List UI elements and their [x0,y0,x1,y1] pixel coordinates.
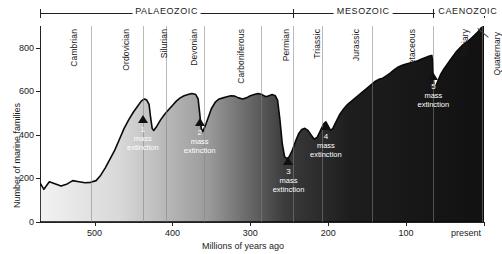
x-tick-label-200: 200 [321,228,336,238]
period-label-devonian: Devonian [189,29,199,66]
extinction-label-2: 2massextinction [184,128,216,155]
x-tick-label-300: 300 [243,228,258,238]
period-label-silurian: Silurian [159,29,169,58]
extinction-number-1: 1 [127,125,159,134]
extinction-text-line2-2: extinction [184,146,216,155]
extinction-text-line1-5: mass [424,91,442,100]
x-tick-label-present: present [451,228,481,238]
gridline-permian [261,26,262,222]
extinction-text-line1-4: mass [317,141,335,150]
x-tick-mark [328,222,329,226]
x-axis-title: Millions of years ago [0,241,486,251]
period-label-carboniferous: Carboniferous [236,29,246,84]
extinction-text-line2-5: extinction [418,100,450,109]
y-tick-label-600: 600 [0,86,34,96]
extinction-marker-triangle-3 [283,157,293,165]
extinction-number-5: 5 [418,82,450,91]
extinction-marker-triangle-2 [195,118,205,126]
x-tick-mark [172,222,173,226]
period-label-cambrian: Cambrian [69,29,79,67]
y-tick-label-800: 800 [0,43,34,53]
y-tick-mark [36,222,40,223]
y-tick-mark [36,91,40,92]
y-tick-mark [36,178,40,179]
era-label-palaeozoic: PALAEOZOIC [132,6,201,16]
y-tick-mark [36,48,40,49]
period-label-triassic: Triassic [312,29,322,59]
extinction-number-2: 2 [184,128,216,137]
gridline-quaternary [482,26,483,222]
extinction-text-line2-4: extinction [310,150,342,159]
x-tick-label-100: 100 [399,228,414,238]
extinction-label-4: 4massextinction [310,132,342,159]
gridline-cretaceous [372,26,373,222]
extinction-number-3: 3 [273,167,305,176]
period-label-quaternary: Quaternary [492,32,502,76]
extinction-text-line2-1: extinction [127,143,159,152]
period-label-permian: Permian [281,29,291,61]
era-label-mesozoic: MESOZOIC [334,6,393,16]
period-label-tertiary: Tertiary [460,29,470,58]
extinction-marker-triangle-1 [138,115,148,123]
extinction-text-line1-2: mass [191,137,209,146]
x-axis-line [40,222,484,223]
era-tick [293,9,294,18]
x-tick-label-500: 500 [87,228,102,238]
y-tick-label-0: 0 [0,217,34,227]
extinction-label-5: 5massextinction [418,82,450,109]
x-tick-mark [406,222,407,226]
y-tick-mark [36,135,40,136]
extinction-number-4: 4 [310,132,342,141]
extinction-marker-triangle-4 [321,122,331,130]
gridline-ordovician [91,26,92,222]
x-tick-mark [484,222,485,226]
extinction-text-line1-3: mass [280,176,298,185]
period-label-ordovician: Ordovician [121,29,131,71]
gridline-tertiary [433,26,434,222]
x-tick-label-400: 400 [165,228,180,238]
extinction-label-1: 1massextinction [127,125,159,152]
era-tick [433,9,434,18]
x-tick-mark [95,222,96,226]
extinction-text-line2-3: extinction [273,185,305,194]
era-header-band: PALAEOZOICMESOZOICCAENOZOIC [0,0,486,20]
era-tick [40,9,41,18]
gridline-silurian [143,26,144,222]
extinction-label-3: 3massextinction [273,167,305,194]
period-label-cretaceous: Cretaceous [407,29,417,73]
x-tick-mark [250,222,251,226]
plot-area [40,26,484,222]
extinction-text-line1-1: mass [134,134,152,143]
era-label-caenozoic: CAENOZOIC [435,6,500,16]
period-label-jurassic: Jurassic [351,29,361,61]
y-axis-title: Number of marine families [12,103,22,208]
extinction-marker-triangle-5 [428,72,438,80]
